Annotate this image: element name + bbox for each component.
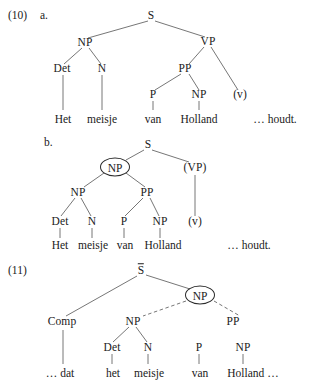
terminal-van-10a: van <box>145 114 162 126</box>
node-n-10b: N <box>88 216 96 228</box>
node-vp-10a: VP <box>201 36 216 48</box>
edge-np-det-11 <box>113 327 129 342</box>
example-number-11: (11) <box>8 265 27 277</box>
edge-sbar-npc-11 <box>146 275 190 289</box>
node-pp-10a: PP <box>179 63 192 75</box>
node-s-bar-11: S <box>138 263 144 277</box>
edge-vp-v-10a <box>211 47 238 90</box>
node-p-11: P <box>196 342 203 354</box>
node-np2-11: NP <box>236 342 251 354</box>
edge-pp-np-10b <box>150 198 159 216</box>
edge-npc-np-11-dashed <box>143 301 186 316</box>
terminal-holland-10b: Holland <box>144 240 181 252</box>
terminal-meisje-11: meisje <box>134 368 164 380</box>
node-v-trace-10b: (v) <box>188 216 202 228</box>
node-pp-10b: PP <box>141 187 154 199</box>
node-np2-10a: NP <box>192 89 207 101</box>
node-comp-11: Comp <box>48 316 77 328</box>
node-n-11: N <box>144 342 152 354</box>
node-pp-11: PP <box>227 316 240 328</box>
edge-s-vp-10a <box>155 21 205 37</box>
terminal-holland-10a: Holland <box>180 114 217 126</box>
node-s-10b: S <box>145 139 152 151</box>
node-n-10a: N <box>98 63 106 75</box>
example-sublabel-10a: a. <box>40 10 48 22</box>
edge-np-n-10b <box>81 198 91 216</box>
tree-edges <box>0 0 317 388</box>
example-number-10: (10) <box>8 10 27 22</box>
node-vp-trace-10b: (VP) <box>184 162 207 174</box>
node-np-circled-label-10b: NP <box>108 161 123 173</box>
node-np-10a: NP <box>78 37 93 49</box>
edge-pp-p-10a <box>155 74 181 90</box>
edge-npc-np-10b <box>84 173 104 187</box>
terminal-houdt-10a: … houdt. <box>253 114 296 126</box>
terminal-meisje-10a: meisje <box>87 114 117 126</box>
node-p-10a: P <box>150 89 157 101</box>
edge-np-det-10b <box>61 198 75 216</box>
terminal-houdt-10b: … houdt. <box>227 240 270 252</box>
terminal-het-10b: Het <box>52 240 69 252</box>
node-det-10a: Det <box>54 63 71 75</box>
edge-np-n-11 <box>136 327 147 342</box>
figure-page: (10) a. S NP VP Det N PP P NP (v) Het me… <box>0 0 317 388</box>
example-sublabel-10b: b. <box>44 137 53 149</box>
edge-s-np-10b <box>126 150 144 160</box>
node-np-circled-11: NP <box>185 286 215 305</box>
node-np-circled-10b: NP <box>100 158 130 177</box>
node-p-10b: P <box>121 216 128 228</box>
terminal-meisje-10b: meisje <box>78 240 108 252</box>
terminal-van-11: van <box>192 368 209 380</box>
node-v-trace-10a: (v) <box>233 89 247 101</box>
terminal-het-11: het <box>106 368 120 380</box>
node-det-11: Det <box>104 342 121 354</box>
node-np2-10b: NP <box>153 216 168 228</box>
node-np-circled-label-11: NP <box>193 289 208 301</box>
terminal-holland-11: Holland … <box>227 368 278 380</box>
edge-npc-pp-10b <box>126 173 145 187</box>
terminal-het-10a: Het <box>55 114 72 126</box>
node-np-11: NP <box>126 316 141 328</box>
edge-s-vp-10b <box>152 150 189 162</box>
node-s-bar-label-11: S <box>138 263 144 277</box>
node-np-10b: NP <box>71 187 86 199</box>
terminal-dat-11: … dat <box>46 368 74 380</box>
node-det-10b: Det <box>52 216 69 228</box>
edge-npc-pp-11-dashed <box>214 301 240 316</box>
node-s-10a: S <box>148 10 155 22</box>
edge-pp-p-10b <box>125 198 143 216</box>
edge-s-np-10a <box>88 21 148 38</box>
edge-sbar-comp-11 <box>66 276 137 316</box>
terminal-van-10b: van <box>117 240 134 252</box>
